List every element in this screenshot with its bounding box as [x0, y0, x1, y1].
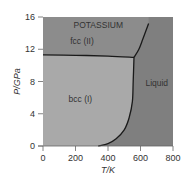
chart-title: POTASSIUM — [74, 20, 123, 30]
x-tick-label: 800 — [165, 153, 180, 163]
x-tick-label: 0 — [40, 153, 45, 163]
y-axis-label: P/GPa — [12, 68, 22, 95]
y-tick-label: 16 — [25, 12, 35, 22]
region-label: bcc (I) — [69, 94, 93, 104]
x-tick-label: 400 — [100, 153, 115, 163]
x-tick-label: 200 — [68, 153, 83, 163]
phase-diagram-figure: 04812160200400600800T/KP/GPaPOTASSIUMfcc… — [0, 0, 188, 187]
y-tick-label: 0 — [30, 141, 35, 151]
x-tick-label: 600 — [133, 153, 148, 163]
y-tick-label: 4 — [30, 109, 35, 119]
x-axis-label: T/K — [101, 165, 116, 175]
region-label: Liquid — [145, 78, 168, 88]
y-tick-label: 12 — [25, 44, 35, 54]
phase-diagram-chart: 04812160200400600800T/KP/GPaPOTASSIUMfcc… — [0, 0, 188, 187]
y-tick-label: 8 — [30, 77, 35, 87]
region-label: fcc (II) — [70, 36, 94, 46]
